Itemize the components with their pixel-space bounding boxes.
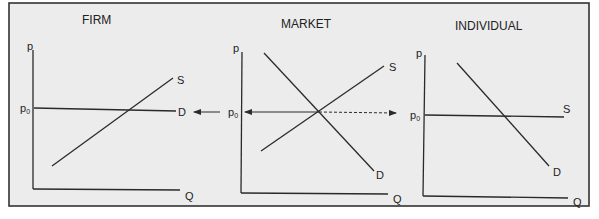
market-x-axis-label: Q <box>393 193 402 205</box>
firm-y-axis-label: p <box>27 40 33 52</box>
market-supply-label: S <box>389 61 396 73</box>
diagram-frame <box>9 3 589 206</box>
individual-demand-label: D <box>553 166 561 178</box>
firm-x-axis-label: Q <box>185 190 194 202</box>
individual-y-axis-label: p <box>416 47 422 59</box>
price-taking-diagram: FIRM p Q p0 D S MARKET p Q p0 <box>0 0 599 219</box>
market-demand-label: D <box>376 169 384 181</box>
firm-supply-label: S <box>177 74 184 86</box>
panel-title-firm: FIRM <box>82 13 111 27</box>
individual-supply-label: S <box>563 103 570 115</box>
diagram-canvas: FIRM p Q p0 D S MARKET p Q p0 <box>0 0 599 219</box>
panel-title-individual: INDIVIDUAL <box>455 19 523 33</box>
market-y-axis-label: p <box>233 42 239 54</box>
individual-x-axis-label: Q <box>573 196 582 208</box>
panel-title-market: MARKET <box>281 17 332 31</box>
firm-demand-label: D <box>178 106 186 118</box>
